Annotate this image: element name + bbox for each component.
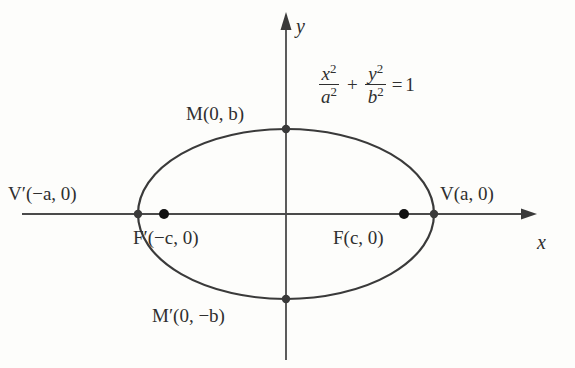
- label-covertex-bottom: M′(0, −b): [152, 306, 225, 325]
- equation-numerator-y: y2: [365, 62, 386, 85]
- equation-denominator-b: b2: [365, 85, 387, 107]
- label-focus-left: F′(−c, 0): [133, 228, 199, 247]
- equation-numerator-x: x2: [319, 62, 340, 85]
- point-focus-left: [159, 209, 169, 219]
- x-axis-arrowhead: [521, 209, 537, 220]
- equation-operator-plus: +: [347, 75, 358, 94]
- label-vertex-left: V′(−a, 0): [8, 184, 77, 203]
- y-axis-arrowhead: [281, 12, 292, 30]
- point-focus-right: [399, 209, 409, 219]
- ellipse-figure: y x V′(−a, 0) F′(−c, 0) V(a, 0) F(c, 0) …: [0, 0, 575, 368]
- label-vertex-right: V(a, 0): [440, 184, 494, 203]
- equation-equals-sign: =: [392, 75, 403, 94]
- label-covertex-top: M(0, b): [186, 104, 244, 123]
- label-focus-right: F(c, 0): [333, 228, 384, 247]
- point-vertex-right: [430, 210, 438, 218]
- ellipse-equation: x2 a2 + y2 b2 = 1: [316, 62, 415, 108]
- point-covertex-bottom: [282, 295, 290, 303]
- equation-right-hand-side: 1: [405, 75, 415, 94]
- point-vertex-left: [134, 210, 142, 218]
- point-covertex-top: [282, 125, 290, 133]
- equation-fraction-x: x2 a2: [318, 62, 340, 108]
- y-axis-label: y: [296, 16, 305, 36]
- x-axis-label: x: [537, 232, 546, 252]
- equation-fraction-y: y2 b2: [365, 62, 387, 108]
- equation-denominator-a: a2: [318, 85, 340, 107]
